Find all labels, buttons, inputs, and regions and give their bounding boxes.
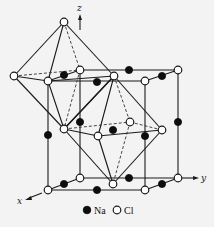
nacl-structure-diagram: z y x (0, 0, 214, 227)
na-legend-icon (83, 206, 91, 214)
cl-legend-icon (113, 206, 121, 214)
cl-atoms (10, 18, 182, 194)
y-arrowhead-icon (193, 176, 199, 180)
legend-na-label: Na (94, 205, 106, 216)
z-arrowhead-icon (78, 14, 82, 20)
y-axis-label: y (200, 173, 207, 183)
z-axis-label: z (76, 3, 82, 13)
x-arrowhead-icon (25, 196, 32, 200)
x-axis-label: x (17, 196, 22, 206)
legend-cl-label: Cl (124, 205, 134, 216)
legend: Na Cl (83, 205, 133, 216)
